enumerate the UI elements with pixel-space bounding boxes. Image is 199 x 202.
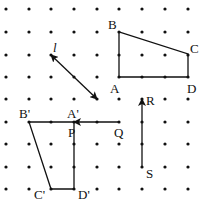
grid-dot — [140, 187, 143, 190]
grid-dot — [140, 30, 143, 33]
grid-dot — [117, 142, 120, 145]
label-a: A — [110, 82, 119, 95]
diagram-canvas — [0, 0, 199, 202]
label-s: S — [146, 167, 153, 180]
grid-dot — [186, 97, 189, 100]
grid-dot — [186, 120, 189, 123]
grid-dot — [95, 53, 98, 56]
grid-dot — [72, 53, 75, 56]
label-q: Q — [114, 126, 123, 139]
label-d-prime: D' — [78, 188, 90, 201]
grid-dot — [72, 97, 75, 100]
line-l-double-arrow — [51, 55, 97, 99]
grid-dot — [4, 142, 7, 145]
grid-dot — [72, 7, 75, 10]
grid-dot — [27, 30, 30, 33]
grid-dot — [27, 75, 30, 78]
grid-dot — [4, 165, 7, 168]
grid-dot — [95, 142, 98, 145]
grid-dot — [95, 187, 98, 190]
grid-dot — [163, 187, 166, 190]
grid-dot — [27, 142, 30, 145]
label-a-prime: A' — [67, 107, 79, 120]
label-b: B — [108, 18, 117, 31]
grid-dot — [117, 187, 120, 190]
grid-dot — [27, 187, 30, 190]
grid-dot — [186, 165, 189, 168]
grid-dot — [163, 53, 166, 56]
grid-dot — [4, 120, 7, 123]
label-l: l — [53, 41, 57, 54]
grid-dot — [49, 75, 52, 78]
dot-grid-diagram: l B C A D B' A' P Q R S C' D' — [0, 0, 199, 202]
grid-dot — [4, 187, 7, 190]
grid-dot — [163, 142, 166, 145]
label-c-prime: C' — [34, 188, 45, 201]
grid-dot — [4, 7, 7, 10]
grid-dot — [140, 7, 143, 10]
grid-dot — [49, 7, 52, 10]
grid-dot — [49, 30, 52, 33]
grid-dot — [95, 165, 98, 168]
grid-dot — [95, 75, 98, 78]
grid-dot — [163, 165, 166, 168]
grid-dot — [186, 142, 189, 145]
grid-dot — [27, 165, 30, 168]
grid-dot — [186, 7, 189, 10]
label-p: P — [68, 126, 75, 139]
label-c: C — [190, 42, 199, 55]
grid-dot — [4, 75, 7, 78]
grid-dot — [4, 30, 7, 33]
grid-dot — [186, 30, 189, 33]
grid-dot — [49, 97, 52, 100]
grid-dot — [163, 30, 166, 33]
grid-dot — [95, 7, 98, 10]
grid-dot — [27, 7, 30, 10]
label-b-prime: B' — [19, 107, 30, 120]
grid-dot — [117, 97, 120, 100]
grid-dot — [4, 53, 7, 56]
grid-dot — [117, 165, 120, 168]
grid-dot — [163, 97, 166, 100]
grid-dot — [140, 53, 143, 56]
grid-dot — [95, 30, 98, 33]
grid-dot — [49, 165, 52, 168]
grid-dot — [163, 120, 166, 123]
grid-dot — [4, 97, 7, 100]
grid-dot — [72, 30, 75, 33]
grid-dot — [27, 53, 30, 56]
grid-dot — [117, 7, 120, 10]
label-r: R — [146, 94, 155, 107]
grid-dot — [163, 7, 166, 10]
grid-dot — [27, 97, 30, 100]
grid-dot — [49, 142, 52, 145]
grid-dot — [186, 187, 189, 190]
quadrilateral-abcd — [119, 32, 188, 77]
label-d: D — [187, 82, 196, 95]
